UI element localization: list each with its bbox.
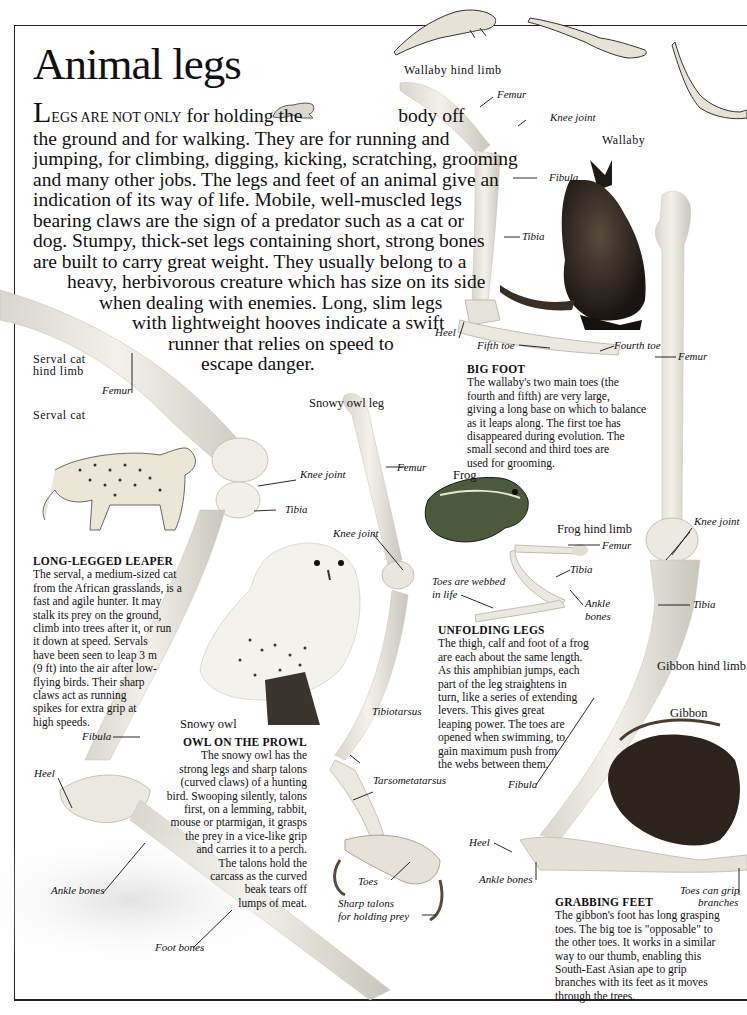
- caption-line: high speeds.: [33, 716, 203, 729]
- wallaby-caption: BIG FOOT The wallaby's two main toes (th…: [467, 363, 707, 470]
- leaping-frog-sketch-2: [528, 18, 646, 58]
- frog-section-label: Frog hind limb: [557, 522, 632, 537]
- caption-heading: BIG FOOT: [467, 363, 707, 376]
- caption-line: used for grooming.: [467, 457, 707, 470]
- serval-tibia-label: Tibia: [285, 503, 308, 515]
- wallaby-animal-label: Wallaby: [602, 133, 645, 148]
- caption-line: levers. This gives great: [438, 704, 638, 717]
- intro-paragraph: LEGS ARE NOT ONLY for holding thebody of…: [33, 102, 413, 375]
- caption-line: toes. The big toe is "opposable" to: [555, 923, 745, 936]
- caption-line: turn, like a series of extending: [438, 691, 638, 704]
- intro-line: are built to carry great weight. They us…: [33, 252, 413, 273]
- wallaby-heel-label: Heel: [435, 326, 456, 338]
- gibbon-caption: GRABBING FEET The gibbon's foot has long…: [555, 896, 745, 1003]
- caption-line: South-East Asian ape to grip: [555, 963, 745, 976]
- caption-line: lumps of meat.: [150, 897, 307, 910]
- serval-section-label-2: hind limb: [33, 364, 84, 379]
- caption-line: branches with its feet as it moves: [555, 976, 745, 989]
- gibbon-knee-label: Knee joint: [694, 515, 740, 527]
- intro-line: dog. Stumpy, thick-set legs containing s…: [33, 231, 413, 252]
- intro-line: runner that relies on speed to: [33, 334, 413, 355]
- intro-line: the ground and for walking. They are for…: [33, 129, 413, 150]
- leaping-frog-sketch-3: [672, 42, 747, 119]
- caption-line: The gibbon's foot has long grasping: [555, 909, 745, 922]
- owl-toes-label: Toes: [358, 875, 378, 887]
- caption-heading: GRABBING FEET: [555, 896, 745, 909]
- owl-animal-label: Snowy owl: [180, 717, 237, 732]
- caption-line: fourth and fifth) are very large,: [467, 390, 707, 403]
- gibbon-ankle-bones-label: Ankle bones: [479, 873, 532, 885]
- caption-line: stalk its prey on the ground,: [33, 609, 203, 622]
- intro-line: heavy, herbivorous creature which has si…: [33, 272, 413, 293]
- serval-caption: LONG-LEGGED LEAPER The serval, a medium-…: [33, 555, 203, 729]
- caption-line: climb into trees after it, or run: [33, 622, 203, 635]
- caption-line: the prey in a vice-like grip: [150, 830, 307, 843]
- caption-line: claws act as running: [33, 689, 203, 702]
- intro-line: bearing claws are the sign of a predator…: [33, 211, 413, 232]
- caption-line: (9 ft) into the air after low-: [33, 662, 203, 675]
- intro-line: when dealing with enemies. Long, slim le…: [33, 293, 413, 314]
- owl-caption: OWL ON THE PROWL The snowy owl has the s…: [150, 736, 307, 910]
- caption-line: carcass as the curved: [150, 870, 307, 883]
- caption-line: disappeared during evolution. The: [467, 430, 707, 443]
- frog-ankle-label-2: bones: [585, 610, 611, 622]
- caption-line: are each about the same length.: [438, 651, 638, 664]
- frog-ankle-label-1: Ankle: [585, 597, 610, 609]
- wallaby-fibula-label: Fibula: [549, 171, 578, 183]
- caption-line: the other toes. It works in a similar: [555, 936, 745, 949]
- frog-tibia-label: Tibia: [570, 563, 593, 575]
- page-title: Animal legs: [33, 38, 241, 90]
- gibbon-heel-label: Heel: [469, 836, 490, 848]
- intro-text: for holding the: [186, 105, 302, 126]
- owl-talons-label-1: Sharp talons: [338, 897, 394, 909]
- wallaby-section-label: Wallaby hind limb: [404, 63, 502, 78]
- gibbon-animal-label: Gibbon: [670, 706, 708, 721]
- serval-animal-label: Serval cat: [33, 408, 86, 423]
- gibbon-section-label: Gibbon hind limb: [657, 659, 746, 674]
- gibbon-tibia-label: Tibia: [693, 598, 716, 610]
- gibbon-toes-label-1: Toes can grip: [680, 884, 740, 896]
- serval-femur-label: Femur: [102, 384, 131, 396]
- caption-heading: LONG-LEGGED LEAPER: [33, 555, 203, 568]
- intro-line: and many other jobs. The legs and feet o…: [33, 170, 413, 191]
- serval-knee-label: Knee joint: [300, 468, 346, 480]
- serval-fibula-label: Fibula: [82, 730, 111, 742]
- serval-ankle-bones-label: Ankle bones: [51, 884, 104, 896]
- caption-line: (curved claws) of a hunting: [150, 776, 307, 789]
- caption-line: The talons hold the: [150, 857, 307, 870]
- wallaby-fifth-toe-label: Fifth toe: [477, 339, 515, 351]
- serval-cat-art: [43, 448, 195, 530]
- caption-line: The serval, a medium-sized cat: [33, 568, 203, 581]
- caption-line: have been seen to leap 3 m: [33, 649, 203, 662]
- caption-line: from the African grasslands, is a: [33, 582, 203, 595]
- caption-line: through the trees.: [555, 990, 745, 1003]
- owl-tarsometatarsus-label: Tarsometatarsus: [373, 774, 446, 786]
- intro-text: body off: [398, 105, 464, 126]
- frog-toes-label-1: Toes are webbed: [432, 575, 505, 587]
- frog-inline-spacer: [328, 105, 376, 125]
- caption-line: opened when swimming, to: [438, 731, 638, 744]
- caption-line: way to our thumb, enabling this: [555, 950, 745, 963]
- gibbon-femur-label: Femur: [678, 350, 707, 362]
- caption-heading: UNFOLDING LEGS: [438, 624, 638, 637]
- wallaby-art: [500, 160, 646, 330]
- owl-talons-label-2: for holding prey: [338, 910, 409, 922]
- caption-line: gain maximum push from: [438, 745, 638, 758]
- caption-line: part of the leg straightens in: [438, 678, 638, 691]
- owl-knee-label: Knee joint: [333, 527, 379, 539]
- caption-line: giving a long base on which to balance: [467, 403, 707, 416]
- caption-line: the webs between them.: [438, 758, 638, 771]
- caption-line: and carries it to a perch.: [150, 843, 307, 856]
- intro-line: jumping, for climbing, digging, kicking,…: [33, 149, 413, 170]
- frog-art: [425, 477, 528, 541]
- caption-line: as it leaps along. The first toe has: [467, 417, 707, 430]
- wallaby-tibia-label: Tibia: [522, 230, 545, 242]
- caption-line: fast and agile hunter. It may: [33, 595, 203, 608]
- serval-heel-label: Heel: [34, 767, 55, 779]
- caption-line: The thigh, calf and foot of a frog: [438, 637, 638, 650]
- intro-line: escape danger.: [33, 354, 413, 375]
- caption-line: bird. Swooping silently, talons: [150, 790, 307, 803]
- owl-section-label: Snowy owl leg: [309, 396, 384, 411]
- caption-line: small second and third toes are: [467, 443, 707, 456]
- frog-caption: UNFOLDING LEGS The thigh, calf and foot …: [438, 624, 638, 771]
